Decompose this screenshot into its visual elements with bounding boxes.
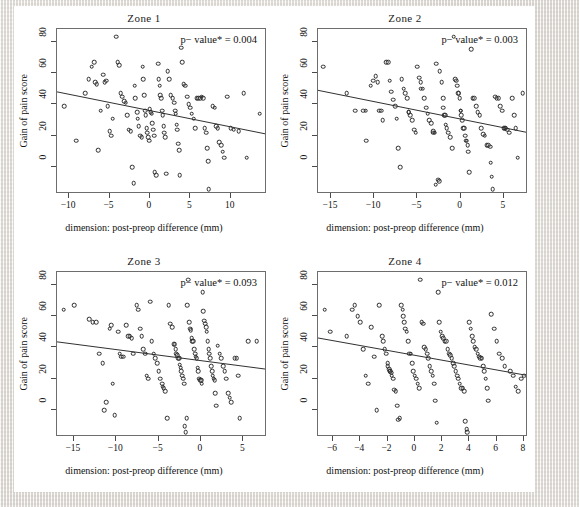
data-point [188,328,193,333]
data-point [436,290,441,295]
data-point [328,329,333,334]
data-point [121,355,126,360]
x-tick [460,193,461,198]
data-point [165,416,170,421]
data-point [417,386,422,391]
data-point [437,320,442,325]
data-point [366,381,371,386]
x-tick-label: 5 [240,443,245,453]
x-axis-label-zone-3: dimension: post-preop difference (mm) [14,465,274,476]
data-point [222,156,227,161]
data-point [175,127,180,132]
data-point [133,96,138,101]
data-point [229,400,234,405]
data-point [465,430,470,435]
data-point [141,77,146,82]
data-point [140,64,145,69]
data-point [166,303,171,308]
x-tick-label: 0 [457,200,462,210]
panel-title-zone-4: Zone 4 [275,255,535,267]
data-point [424,105,429,110]
data-point [389,90,394,95]
data-point [188,105,193,110]
data-point [161,124,166,129]
data-point [92,60,97,65]
data-point [136,307,141,312]
data-point [138,326,143,331]
data-point [418,278,423,283]
data-point [398,165,403,170]
data-point [391,377,396,382]
panel-zone-4: Zone 4 Gain of pain score 020406080 p− v… [275,249,535,492]
data-point [522,373,527,378]
data-point [384,351,389,356]
data-point [350,307,355,312]
data-point [184,416,189,421]
data-point [89,64,94,69]
x-tick-label: −2 [381,443,391,453]
data-point [368,83,373,88]
data-point [510,96,515,101]
data-point [344,91,349,96]
x-tick [416,193,417,198]
data-point [477,113,482,118]
data-point [191,339,196,344]
data-point [515,156,520,161]
x-axis-zone-4: −6−4−202468 [317,436,527,442]
data-point [471,339,476,344]
data-point [406,339,411,344]
data-point [200,290,205,295]
data-point [391,97,396,102]
data-point [448,135,453,140]
data-point [369,325,374,330]
data-point [521,91,526,96]
x-tick-label: −4 [354,443,364,453]
x-axis-label-zone-1: dimension: post-preop difference (mm) [14,222,274,233]
data-point [173,112,178,117]
y-tick-label: 40 [299,90,309,100]
data-point [213,391,218,396]
data-point [374,74,379,79]
data-point [157,83,162,88]
y-tick-label: 60 [38,301,48,311]
data-point [483,377,488,382]
x-tick-label: 6 [493,443,498,453]
data-point [136,124,141,129]
data-point [400,307,405,312]
x-tick [230,193,231,198]
x-axis-label-zone-4: dimension: post-preop difference (mm) [275,465,535,476]
data-point [441,105,446,110]
data-point [415,64,420,69]
data-point [156,77,161,82]
x-tick-label: 0 [147,200,152,210]
data-point [394,116,399,121]
data-point [177,173,182,178]
y-tick-label: 60 [38,58,48,68]
data-point [443,113,448,118]
data-point [164,171,169,176]
data-point [109,323,114,328]
y-tick-label: 40 [38,333,48,343]
data-point [124,323,129,328]
data-point [100,361,105,366]
data-point [398,416,403,421]
data-point [147,138,152,143]
regression-line-zone-3 [57,272,265,435]
y-axis-label-zone-3: Gain of pain score [16,271,30,436]
data-point [245,156,250,161]
data-point [489,174,494,179]
data-point [125,113,130,118]
data-point [194,356,199,361]
x-tick-label: −10 [366,200,381,210]
data-point [148,300,153,305]
data-point [467,320,472,325]
data-point [410,361,415,366]
data-point [183,430,188,435]
data-point [219,356,224,361]
data-point [86,77,91,82]
data-point [97,351,102,356]
y-tick-label: 0 [299,155,309,160]
data-point [364,138,369,143]
panel-title-zone-1: Zone 1 [14,12,274,24]
data-point [494,339,499,344]
